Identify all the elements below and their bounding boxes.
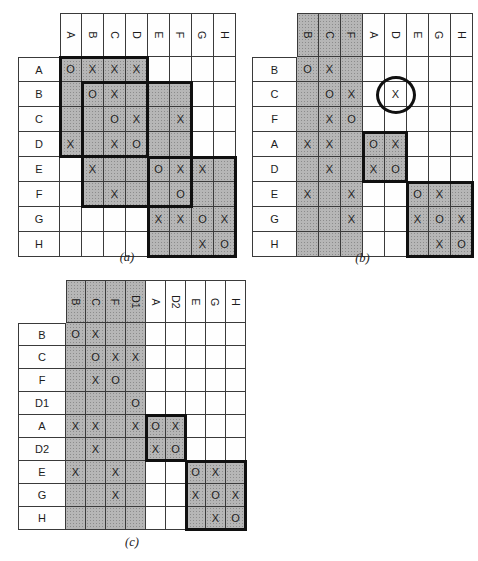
col-header-a: A (146, 280, 166, 323)
cell-c-a (363, 82, 385, 107)
cell-h-f (106, 507, 126, 530)
cell-d2-c: X (86, 438, 106, 461)
cell-c-a (60, 107, 82, 132)
col-header-label: D1 (130, 295, 142, 308)
cell-d1-a (146, 392, 166, 415)
cell-c-c: O (104, 107, 126, 132)
cell-e-c (86, 461, 106, 484)
cell-b-c: X (104, 82, 126, 107)
col-header-g: G (206, 280, 226, 323)
cell-f-d (385, 107, 407, 132)
cell-f-b (82, 182, 104, 207)
cell-b-a (60, 82, 82, 107)
cell-f-e (148, 182, 170, 207)
cell-g-h: X (226, 484, 246, 507)
row-header-d1: D1 (18, 392, 66, 415)
cell-g-d1 (126, 484, 146, 507)
cell-d-d: O (126, 132, 148, 157)
col-header-b: B (66, 280, 86, 323)
cell-c-f: X (106, 346, 126, 369)
cell-d-b (297, 157, 319, 182)
cell-a-f (170, 57, 192, 82)
cell-c-h (214, 107, 236, 132)
cell-a-e (407, 132, 429, 157)
cell-b-h (214, 82, 236, 107)
cell-g-c (319, 207, 341, 232)
col-header-label: C (324, 31, 336, 39)
cell-b-d2 (166, 323, 186, 346)
cell-h-h: O (226, 507, 246, 530)
col-header-label: D2 (170, 295, 182, 308)
col-header-label: B (70, 298, 82, 305)
cell-d1-d2 (166, 392, 186, 415)
caption-c: (c) (18, 535, 246, 550)
cell-e-a (363, 182, 385, 207)
cell-b-e (407, 57, 429, 82)
col-header-a: A (363, 13, 385, 57)
cell-d-h (451, 157, 473, 182)
cell-e-d1 (126, 461, 146, 484)
col-header-b: B (297, 13, 319, 57)
cell-g-h: X (451, 207, 473, 232)
col-header-label: F (345, 32, 357, 38)
cell-g-g: O (429, 207, 451, 232)
cell-f-e (186, 369, 206, 392)
matrix-c: BCFD1AD2EGHBOXCOXXFXOD1OAXXXOXD2XXOEXXOX… (18, 280, 246, 530)
col-header-label: H (230, 298, 242, 306)
cell-b-f (341, 57, 363, 82)
cell-g-g: O (206, 484, 226, 507)
cell-a-b: X (297, 132, 319, 157)
cell-d2-g (206, 438, 226, 461)
cell-e-f: X (341, 182, 363, 207)
cell-g-c (104, 207, 126, 232)
col-header-g: G (429, 13, 451, 57)
col-header-c: C (319, 13, 341, 57)
cell-b-b: O (297, 57, 319, 82)
cell-a-a: O (363, 132, 385, 157)
row-header-b: B (18, 323, 66, 346)
cell-a-c: X (319, 132, 341, 157)
cell-d1-g (206, 392, 226, 415)
col-header-h: H (226, 280, 246, 323)
row-header-d2: D2 (18, 438, 66, 461)
cell-d-g (192, 132, 214, 157)
cell-e-a (60, 157, 82, 182)
cell-g-b (82, 207, 104, 232)
col-header-label: D (131, 31, 143, 39)
cell-c-a (146, 346, 166, 369)
cell-g-e: X (186, 484, 206, 507)
cell-b-h (451, 57, 473, 82)
row-header-d: D (252, 157, 297, 182)
row-header-e: E (252, 182, 297, 207)
cell-f-b (66, 369, 86, 392)
cell-d2-f (106, 438, 126, 461)
cell-f-f: O (341, 107, 363, 132)
cell-f-d2 (166, 369, 186, 392)
cell-g-f: X (341, 207, 363, 232)
matrix-b: BCFADEGHBOXCOXXFXOAXXOXDXXOEXXOXGXXOXHXO (252, 13, 473, 257)
caption-a: (a) (18, 250, 236, 265)
cell-d1-e (186, 392, 206, 415)
row-header-c: C (252, 82, 297, 107)
cell-b-c: X (86, 323, 106, 346)
col-header-label: G (433, 31, 445, 39)
cell-d-h (214, 132, 236, 157)
cell-c-d: X (385, 82, 407, 107)
cell-f-h (226, 369, 246, 392)
cell-d-d: O (385, 157, 407, 182)
cell-e-c (319, 182, 341, 207)
cell-c-g (192, 107, 214, 132)
col-header-c: C (104, 13, 126, 57)
cell-a-f (106, 415, 126, 438)
cell-d1-c (86, 392, 106, 415)
cell-e-f: X (106, 461, 126, 484)
cell-g-f: X (106, 484, 126, 507)
cell-e-g: X (429, 182, 451, 207)
col-header-e: E (148, 13, 170, 57)
cell-a-h (226, 415, 246, 438)
cell-f-h (214, 182, 236, 207)
cell-e-d (385, 182, 407, 207)
cell-a-h (451, 132, 473, 157)
col-header-h: H (451, 13, 473, 57)
cell-c-b (82, 107, 104, 132)
